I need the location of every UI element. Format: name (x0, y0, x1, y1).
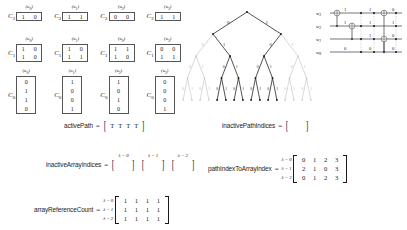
c-array-line: 0 (63, 97, 81, 103)
tree-node (182, 99, 183, 100)
matrix-cell: 1 (142, 205, 153, 214)
c-array-line: 0 (110, 106, 128, 112)
c-array-bit: 1 (110, 97, 128, 103)
c-array-line: 1 (110, 79, 128, 85)
c-array-line: 10 (63, 46, 87, 52)
circuit-stage-marker (395, 25, 397, 27)
c-array-row-0: C0(u0)0110C0(u1)1001C0(u2)1010C0(u3)0001 (8, 76, 193, 114)
tree-node (242, 99, 244, 101)
path-index-to-array-index-row-labels: λ = 0λ = 1λ = 2 (282, 155, 292, 183)
matrix-cell: 1 (120, 205, 131, 214)
inactive-array-indices-group-1: λ = 1[] (141, 160, 166, 169)
tree-edge-label: 0 (233, 87, 235, 91)
tree-node (301, 99, 302, 100)
circuit-stage-marker (360, 25, 362, 27)
c-array-bit: 0 (63, 88, 81, 94)
c-array-bit: 0 (123, 54, 132, 60)
inactive-path-indices-equation: inactivePathIndices = [ ] (222, 121, 310, 130)
c-array-block-label: C2 (147, 13, 154, 21)
matrix-cell: 1 (131, 196, 142, 205)
bracket-left-icon: [ (104, 121, 107, 130)
circuit-stage-marker (395, 38, 397, 40)
tree-edge-label: 0 (291, 65, 293, 69)
bracket-right-icon: ] (142, 121, 145, 130)
circuit-bit-label: 1 (369, 20, 372, 25)
c-array-block-1-3: C1(u3)0011 (147, 44, 181, 62)
circuit-bit-label: 1 (392, 20, 395, 25)
matrix-cell: 2 (320, 155, 331, 164)
c-array-block-2-0: C2(u0)10 (8, 12, 42, 21)
inactive-path-indices-label: inactivePathIndices (222, 122, 275, 129)
c-array-bit: 0 (31, 54, 40, 60)
c-array-line: 1 (63, 106, 81, 112)
c-array-bit: 0 (169, 46, 178, 52)
matrix-cell: 1 (153, 196, 164, 205)
c-array-bit: 0 (123, 14, 132, 20)
active-path-value: T (132, 122, 140, 129)
c-array-block-header: (u3) (155, 37, 181, 44)
matrix-row: 0123 (298, 173, 342, 182)
c-array-block-2-3: C2(u3)11 (147, 12, 181, 21)
bracket-right-icon: ] (306, 121, 309, 130)
active-path-equals: = (96, 122, 100, 130)
circuit-stage-marker (373, 51, 375, 53)
tree-node (284, 99, 285, 100)
c-array-block-header: (u0) (16, 37, 42, 44)
tree-node (276, 99, 278, 101)
c-array-bit: 1 (157, 14, 166, 20)
tree-edge-label: 0 (284, 87, 286, 91)
c-array-bit: 1 (77, 54, 86, 60)
c-array-line: 00 (156, 46, 180, 52)
c-array-bit: 1 (123, 46, 132, 52)
tree-edge-label: 1 (270, 65, 272, 69)
tree-node (221, 77, 223, 79)
tree-edge (281, 34, 298, 56)
c-array-bit: 1 (65, 14, 74, 20)
c-array-box: 1001 (62, 76, 82, 114)
c-array-box: 1010 (109, 76, 129, 114)
circuit-stage-marker (360, 38, 362, 40)
tree-edge-label: 1 (310, 87, 312, 91)
tree-node (289, 77, 290, 78)
encoder-circuit-svg: w3w2w1w0 11011110000 (316, 4, 404, 62)
tree-node (280, 33, 282, 35)
tree-edge (247, 12, 281, 34)
c-array-line: 10 (17, 46, 41, 52)
c-array-bit: 1 (65, 46, 74, 52)
circuit-wire-label: w0 (316, 50, 321, 56)
matrix-cell: 2 (298, 164, 309, 173)
circuit-stage-marker (373, 25, 375, 27)
matrix-cell: 1 (309, 173, 320, 182)
c-array-bit: 0 (17, 79, 35, 85)
tree-edge-label: 0 (250, 87, 252, 91)
c-array-block-header: (u1) (62, 69, 82, 76)
c-array-line: 0 (156, 79, 174, 85)
c-array-block-label: C0 (147, 92, 154, 100)
c-array-bit: 1 (63, 79, 81, 85)
tree-edge-label: 0 (270, 42, 273, 47)
circuit-control-dot (383, 51, 385, 53)
matrix-cell: 1 (153, 214, 164, 223)
circuit-stage-marker (360, 51, 362, 53)
c-array-bit: 0 (110, 88, 128, 94)
c-array-bit: 0 (31, 14, 40, 20)
active-path-vector: [ TTTT ] (103, 121, 146, 130)
tree-edge-label: 1 (202, 65, 204, 69)
c-array-block-label: C0 (54, 92, 61, 100)
matrix-cell: 1 (120, 214, 131, 223)
c-array-block-label: C1 (100, 50, 107, 58)
c-array-block-label: C0 (8, 92, 15, 100)
matrix-cell: 3 (331, 173, 342, 182)
tree-node (238, 77, 240, 79)
c-array-line: 1 (17, 88, 35, 94)
lambda-row-label: λ = 0 (282, 155, 292, 164)
path-index-to-array-index-equals: = (275, 165, 279, 173)
tree-root-node (246, 11, 248, 13)
c-array-block-label: C1 (54, 50, 61, 58)
tree-edge (213, 12, 247, 34)
c-array-line: 11 (156, 54, 180, 60)
tree-node (255, 77, 257, 79)
tree-node (306, 77, 307, 78)
path-tree-svg: 000011011001101100011011001101 (178, 2, 316, 116)
tree-node (225, 99, 227, 101)
